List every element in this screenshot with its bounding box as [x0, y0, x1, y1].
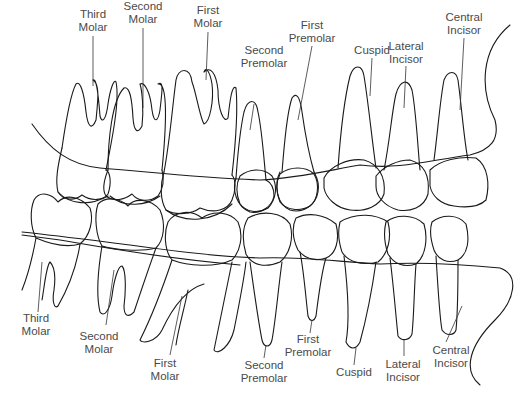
- lower-third-molar: [22, 194, 92, 312]
- label-lower-second-premolar: SecondPremolar: [241, 359, 288, 385]
- label-lower-central-incisor: CentralIncisor: [432, 344, 469, 370]
- upper-central-incisor: [430, 73, 488, 207]
- upper-first-molar: [161, 70, 237, 214]
- upper-first-premolar: [277, 95, 319, 211]
- label-lower-lateral-incisor: LateralIncisor: [385, 358, 420, 384]
- label-upper-second-premolar: SecondPremolar: [241, 44, 288, 70]
- lower-first-molar: [140, 212, 246, 355]
- upper-third-molar: [57, 80, 117, 200]
- upper-second-premolar: [235, 102, 274, 213]
- label-lower-second-molar: SecondMolar: [79, 330, 118, 356]
- upper-second-premolar-crown: [237, 170, 275, 211]
- lower-central-incisor: [431, 216, 468, 342]
- label-lower-cuspid: Cuspid: [336, 366, 372, 379]
- label-lower-first-premolar: FirstPremolar: [285, 333, 332, 359]
- label-upper-first-molar: FirstMolar: [194, 4, 223, 30]
- upper-second-molar: [104, 83, 166, 200]
- lower-cuspid: [339, 215, 390, 365]
- label-upper-third-molar: ThirdMolar: [79, 8, 108, 34]
- label-lower-third-molar: ThirdMolar: [22, 312, 51, 338]
- lower-second-molar: [96, 199, 164, 325]
- upper-cuspid: [324, 67, 384, 210]
- label-upper-cuspid: Cuspid: [354, 44, 390, 57]
- label-upper-lateral-incisor: LateralIncisor: [388, 40, 423, 66]
- lower-lateral-incisor: [385, 216, 426, 356]
- label-lower-first-molar: FirstMolar: [151, 357, 180, 383]
- label-upper-central-incisor: CentralIncisor: [445, 11, 482, 37]
- label-upper-first-premolar: FirstPremolar: [289, 19, 336, 45]
- label-upper-second-molar: SecondMolar: [123, 0, 162, 26]
- lower-first-premolar: [293, 215, 337, 333]
